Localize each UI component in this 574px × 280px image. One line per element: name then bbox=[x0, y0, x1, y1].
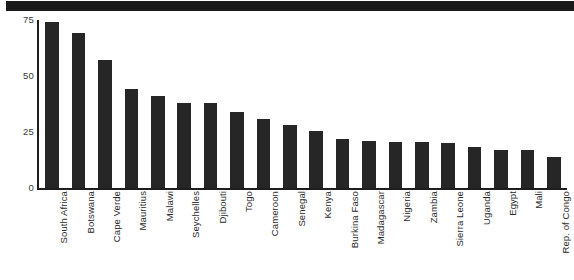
x-axis-label: Djibouti bbox=[215, 191, 225, 223]
x-axis-label-text: Sierra Leone bbox=[455, 191, 465, 247]
x-axis-label: Senegal bbox=[294, 191, 304, 227]
x-axis-label-text: Mauritius bbox=[138, 191, 148, 230]
x-axis-label-text: Botswana bbox=[86, 191, 96, 234]
bar[interactable] bbox=[98, 60, 112, 188]
plot-area: 0255075 South AfricaBotswanaCape VerdeMa… bbox=[0, 0, 574, 280]
y-tick-label: 25 bbox=[4, 127, 34, 137]
bar[interactable] bbox=[230, 112, 244, 188]
x-axis-label: Rep. of Congo bbox=[558, 191, 568, 254]
x-axis-label-text: Togo bbox=[244, 191, 254, 212]
bar[interactable] bbox=[125, 89, 139, 188]
bar[interactable] bbox=[257, 119, 271, 188]
bar[interactable] bbox=[521, 150, 535, 188]
x-axis-label: Togo bbox=[241, 191, 251, 212]
bar[interactable] bbox=[177, 103, 191, 188]
x-axis-label: Mali bbox=[531, 191, 541, 209]
y-tick-label: 0 bbox=[4, 183, 34, 193]
bar[interactable] bbox=[494, 150, 508, 188]
x-axis-label-text: Senegal bbox=[297, 191, 307, 227]
x-axis-label-text: Madagascar bbox=[376, 191, 386, 244]
x-axis-label-text: Cameroon bbox=[270, 191, 280, 236]
x-axis-label-text: Djibouti bbox=[218, 191, 228, 223]
x-axis-label-text: Uganda bbox=[482, 191, 492, 225]
bar[interactable] bbox=[45, 22, 59, 188]
x-axis-label: Mauritius bbox=[135, 191, 145, 230]
x-axis-labels: South AfricaBotswanaCape VerdeMauritiusM… bbox=[39, 191, 567, 279]
x-axis-label-text: Burkina Faso bbox=[350, 191, 360, 248]
x-axis-label-text: South Africa bbox=[59, 191, 69, 243]
x-axis-label: Zambia bbox=[426, 191, 436, 223]
x-axis-label: Kenya bbox=[320, 191, 330, 218]
x-axis-label-text: Malawi bbox=[165, 191, 175, 221]
bar[interactable] bbox=[72, 33, 86, 188]
x-axis-label: South Africa bbox=[56, 191, 66, 243]
x-axis-label-text: Egypt bbox=[508, 191, 518, 216]
x-axis-label: Egypt bbox=[505, 191, 515, 216]
x-axis-label: Nigeria bbox=[399, 191, 409, 222]
x-axis-label-text: Rep. of Congo bbox=[561, 191, 571, 254]
x-axis-label-text: Mali bbox=[534, 191, 544, 209]
x-axis-label: Burkina Faso bbox=[347, 191, 357, 248]
x-axis-label: Malawi bbox=[162, 191, 172, 221]
bar[interactable] bbox=[468, 147, 482, 188]
bar[interactable] bbox=[309, 131, 323, 188]
x-axis-label-text: Cape Verde bbox=[112, 191, 122, 242]
bar[interactable] bbox=[547, 157, 561, 188]
x-axis-label: Seychelles bbox=[188, 191, 198, 238]
x-axis-label: Botswana bbox=[83, 191, 93, 234]
y-tick-label: 75 bbox=[4, 15, 34, 25]
x-axis-label: Cameroon bbox=[267, 191, 277, 236]
bar-series bbox=[39, 0, 567, 188]
y-tick-label: 50 bbox=[4, 71, 34, 81]
bar[interactable] bbox=[362, 141, 376, 188]
bar[interactable] bbox=[415, 142, 429, 188]
bar[interactable] bbox=[204, 103, 218, 188]
x-axis-label-text: Seychelles bbox=[191, 191, 201, 238]
x-axis-label: Uganda bbox=[479, 191, 489, 225]
bar[interactable] bbox=[336, 139, 350, 188]
x-axis-line bbox=[37, 188, 567, 190]
bar[interactable] bbox=[389, 142, 403, 188]
bar[interactable] bbox=[283, 125, 297, 188]
bar[interactable] bbox=[441, 143, 455, 188]
x-axis-label-text: Nigeria bbox=[402, 191, 412, 222]
x-axis-label-text: Zambia bbox=[429, 191, 439, 223]
x-axis-label-text: Kenya bbox=[323, 191, 333, 218]
x-axis-label: Madagascar bbox=[373, 191, 383, 244]
x-axis-label: Cape Verde bbox=[109, 191, 119, 242]
bar-chart-figure: 0255075 South AfricaBotswanaCape VerdeMa… bbox=[0, 0, 574, 280]
x-axis-label: Sierra Leone bbox=[452, 191, 462, 247]
bar[interactable] bbox=[151, 96, 165, 188]
